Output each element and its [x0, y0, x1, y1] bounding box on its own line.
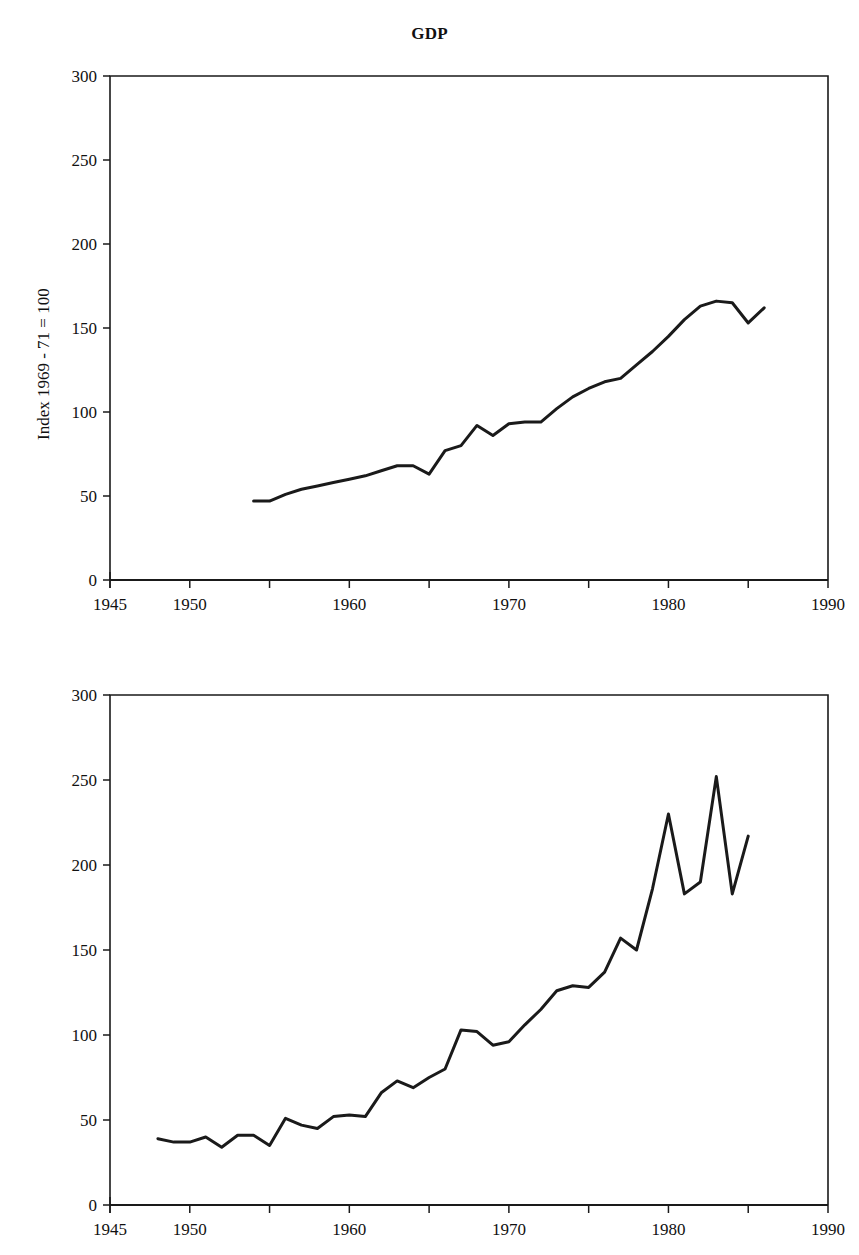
- y-tick-label: 200: [72, 856, 98, 875]
- figure-total-exports: Total Exports Index 1969 - 71 = 100 0501…: [0, 620, 859, 1255]
- y-tick-label: 0: [89, 1196, 98, 1215]
- plot-frame: [110, 695, 828, 1205]
- data-series-line: [254, 301, 765, 501]
- y-tick-label: 300: [72, 686, 98, 705]
- x-tick-label: 1990: [811, 1220, 845, 1239]
- x-tick-label: 1960: [332, 1220, 366, 1239]
- x-tick-label: 1970: [492, 1220, 526, 1239]
- y-tick-label: 100: [72, 403, 98, 422]
- x-tick-label: 1960: [332, 595, 366, 614]
- y-axis-ticks: 050100150200250300: [72, 67, 111, 590]
- plot-area-total-exports: 0501001502002503001945195019601970198019…: [0, 620, 859, 1255]
- y-tick-label: 250: [72, 151, 98, 170]
- plot-area-gdp: 0501001502002503001945195019601970198019…: [0, 0, 859, 620]
- x-tick-label: 1950: [173, 1220, 207, 1239]
- plot-frame: [110, 76, 828, 580]
- y-tick-label: 150: [72, 941, 98, 960]
- y-tick-label: 50: [80, 1111, 97, 1130]
- y-axis-ticks: 050100150200250300: [72, 686, 111, 1215]
- x-tick-label: 1990: [811, 595, 845, 614]
- y-tick-label: 50: [80, 487, 97, 506]
- data-series-line: [158, 777, 748, 1148]
- y-tick-label: 200: [72, 235, 98, 254]
- x-axis-ticks: 194519501960197019801990: [93, 572, 845, 614]
- x-tick-label: 1970: [492, 595, 526, 614]
- y-tick-label: 100: [72, 1026, 98, 1045]
- y-tick-label: 300: [72, 67, 98, 86]
- x-axis-ticks: 194519501960197019801990: [93, 1197, 845, 1239]
- figure-gdp: GDP Index 1969 - 71 = 100 05010015020025…: [0, 0, 859, 620]
- y-tick-label: 250: [72, 771, 98, 790]
- y-tick-label: 150: [72, 319, 98, 338]
- x-tick-label: 1980: [651, 595, 685, 614]
- x-tick-label: 1945: [93, 1220, 127, 1239]
- y-tick-label: 0: [89, 571, 98, 590]
- x-tick-label: 1945: [93, 595, 127, 614]
- x-tick-label: 1950: [173, 595, 207, 614]
- x-tick-label: 1980: [651, 1220, 685, 1239]
